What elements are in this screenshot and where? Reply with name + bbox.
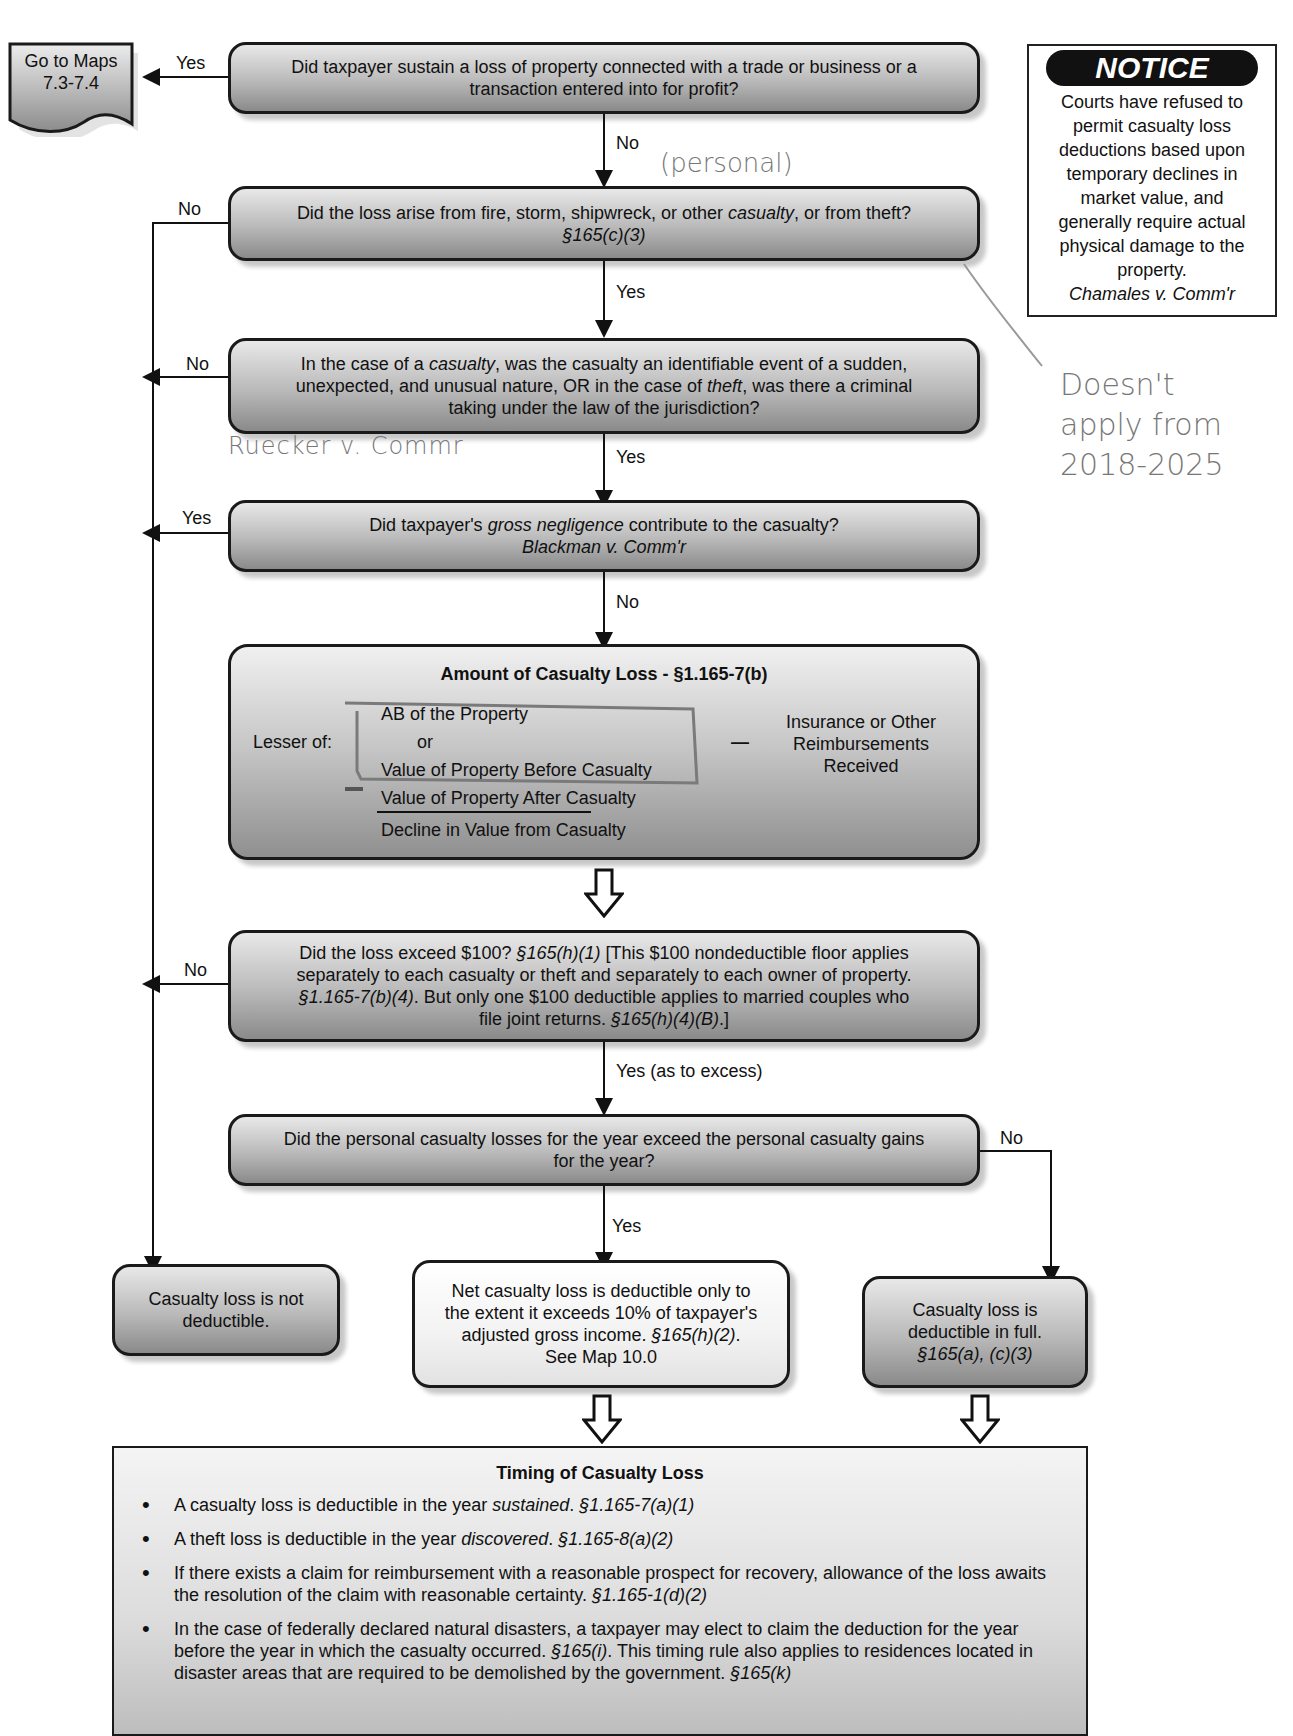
q2-no-label: No (178, 199, 201, 220)
hollow-down-arrow-icon (584, 868, 624, 918)
q1-no-connector (603, 114, 605, 174)
q6-line2: for the year? (553, 1150, 654, 1172)
notice-citation: Chamales v. Comm'r (1029, 282, 1275, 306)
q6-yes-connector (603, 1186, 605, 1256)
arrow-down-icon (595, 320, 613, 338)
q2-yes-label: Yes (616, 282, 645, 303)
q5-yes-connector (603, 1042, 605, 1104)
q6-no-label: No (1000, 1128, 1023, 1149)
question-trade-or-business: Did taxpayer sustain a loss of property … (228, 42, 980, 114)
minus-sign: — (731, 731, 749, 753)
handwritten-personal-note: (personal) (660, 148, 793, 178)
notice-line: property. (1029, 258, 1275, 282)
q3-line1: In the case of a casualty, was the casua… (301, 353, 907, 375)
q4-yes-connector (160, 532, 228, 534)
arrow-left-icon (142, 975, 160, 993)
q3-no-connector (160, 376, 228, 378)
outcome-agi-see-map-link: See Map 10.0 (545, 1346, 657, 1368)
handwritten-bracket-annotation (341, 691, 701, 811)
q6-yes-label: Yes (612, 1216, 641, 1237)
arrow-left-icon (142, 68, 160, 86)
timing-title: Timing of Casualty Loss (114, 1462, 1086, 1484)
outcome-full-line1: Casualty loss is (912, 1299, 1037, 1321)
question-sudden-unexpected-unusual: In the case of a casualty, was the casua… (228, 338, 980, 434)
decline-in-value-item: Decline in Value from Casualty (381, 819, 626, 841)
q5-no-label: No (184, 960, 207, 981)
q2-citation: §165(c)(3) (562, 224, 645, 246)
outcome-agi-line1: Net casualty loss is deductible only to (451, 1280, 750, 1302)
q5-line1: Did the loss exceed $100? §165(h)(1) [Th… (299, 942, 908, 964)
amount-of-casualty-loss-box: Amount of Casualty Loss - §1.165-7(b) Le… (228, 644, 980, 860)
outcome-agi-line2: the extent it exceeds 10% of taxpayer's (445, 1302, 758, 1324)
go-to-maps-line2: 7.3-7.4 (10, 72, 132, 94)
notice-line: generally require actual (1029, 210, 1275, 234)
subtraction-line (377, 811, 591, 813)
q3-yes-connector (603, 434, 605, 496)
q1-yes-connector (160, 76, 228, 78)
q3-line2: unexpected, and unusual nature, OR in th… (296, 375, 912, 397)
question-losses-exceed-gains: Did the personal casualty losses for the… (228, 1114, 980, 1186)
bullet-icon: • (142, 1494, 150, 1516)
q5-line3: §1.165-7(b)(4). But only one $100 deduct… (299, 986, 909, 1008)
handwritten-case-note: Ruecker v. Commr (228, 432, 464, 460)
q6-no-connector-v (1050, 1150, 1052, 1270)
q6-no-connector-h (980, 1150, 1052, 1152)
outcome-agi-limited: Net casualty loss is deductible only to … (412, 1260, 790, 1388)
notice-line: permit casualty loss (1029, 114, 1275, 138)
q6-line1: Did the personal casualty losses for the… (284, 1128, 924, 1150)
q5-line2: separately to each casualty or theft and… (296, 964, 911, 986)
q2-line1: Did the loss arise from fire, storm, shi… (297, 202, 911, 224)
q4-citation: Blackman v. Comm'r (522, 536, 686, 558)
q5-no-connector (160, 983, 228, 985)
hollow-down-arrow-icon (960, 1394, 1000, 1444)
notice-title: NOTICE (1046, 50, 1258, 86)
notice-line: deductions based upon (1029, 138, 1275, 162)
question-gross-negligence: Did taxpayer's gross negligence contribu… (228, 500, 980, 572)
q1-line1: Did taxpayer sustain a loss of property … (291, 56, 916, 78)
question-casualty-or-theft: Did the loss arise from fire, storm, shi… (228, 186, 980, 261)
outcome-full-line2: deductible in full. (908, 1321, 1042, 1343)
q5-yes-label: Yes (as to excess) (616, 1061, 762, 1082)
q4-no-label: No (616, 592, 639, 613)
hollow-down-arrow-icon (582, 1394, 622, 1444)
q3-yes-label: Yes (616, 447, 645, 468)
outcome-not-deductible-line1: Casualty loss is not (148, 1288, 303, 1310)
question-exceed-100-floor: Did the loss exceed $100? §165(h)(1) [Th… (228, 930, 980, 1042)
go-to-maps-line1: Go to Maps (10, 50, 132, 72)
notice-line: physical damage to the (1029, 234, 1275, 258)
q5-line4: file joint returns. §165(h)(4)(B).] (479, 1008, 729, 1030)
amount-title: Amount of Casualty Loss - §1.165-7(b) (231, 663, 977, 685)
outcome-agi-line3: adjusted gross income. §165(h)(2). (461, 1324, 740, 1346)
arrow-left-icon (142, 524, 160, 542)
reimbursements-item: Insurance or Other Reimbursements Receiv… (771, 711, 951, 777)
notice-line: temporary declines in (1029, 162, 1275, 186)
q2-yes-connector (603, 261, 605, 325)
handwritten-margin-note: Doesn't apply from 2018-2025 (1060, 365, 1224, 485)
outcome-not-deductible: Casualty loss is not deductible. (112, 1264, 340, 1356)
outcome-deductible-in-full: Casualty loss is deductible in full. §16… (862, 1276, 1088, 1388)
bullet-icon: • (142, 1562, 150, 1606)
q4-no-connector (603, 572, 605, 640)
q4-yes-label: Yes (182, 508, 211, 529)
q1-yes-label: Yes (176, 53, 205, 74)
q1-line2: transaction entered into for profit? (469, 78, 738, 100)
notice-line: market value, and (1029, 186, 1275, 210)
bullet-icon: • (142, 1618, 150, 1684)
go-to-maps-box: Go to Maps 7.3-7.4 (8, 42, 138, 137)
lesser-of-label: Lesser of: (253, 731, 332, 753)
timing-bullet: • A theft loss is deductible in the year… (114, 1528, 1086, 1550)
timing-bullet: • A casualty loss is deductible in the y… (114, 1494, 1086, 1516)
q2-no-connector (152, 222, 228, 224)
notice-line: Courts have refused to (1029, 90, 1275, 114)
outcome-full-citation: §165(a), (c)(3) (917, 1343, 1032, 1365)
notice-box: NOTICE Courts have refused to permit cas… (1027, 44, 1277, 317)
q1-no-label: No (616, 133, 639, 154)
q4-line1: Did taxpayer's gross negligence contribu… (369, 514, 839, 536)
q3-no-label: No (186, 354, 209, 375)
q3-line3: taking under the law of the jurisdiction… (448, 397, 759, 419)
outcome-not-deductible-line2: deductible. (182, 1310, 269, 1332)
timing-bullet: • If there exists a claim for reimbursem… (114, 1562, 1086, 1606)
timing-of-casualty-loss-box: Timing of Casualty Loss • A casualty los… (112, 1446, 1088, 1736)
not-deductible-trunk-line (152, 222, 154, 1262)
timing-bullet: • In the case of federally declared natu… (114, 1618, 1086, 1684)
